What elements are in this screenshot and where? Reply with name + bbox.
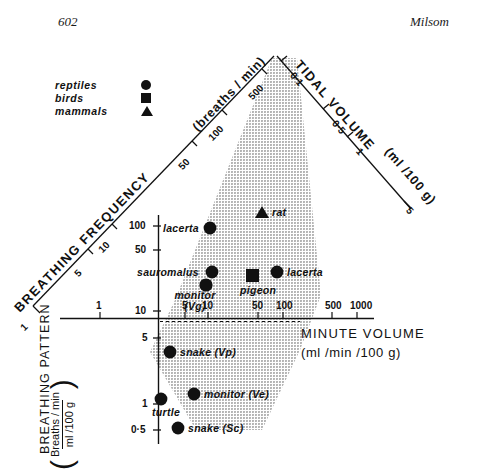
mv-ticklabel-1: 1 xyxy=(96,300,102,311)
point-label-lacerta-right: lacerta xyxy=(287,266,323,278)
data-point-turtle xyxy=(155,393,168,406)
bf-tick-100 xyxy=(222,110,227,115)
data-point-lacerta-right xyxy=(271,266,284,279)
point-label-pigeon: pigeon xyxy=(240,284,276,296)
data-point-monitor-ve xyxy=(188,388,201,401)
point-label-snake-sc: snake (Sc) xyxy=(188,422,244,434)
minute-volume-axis-unit: (ml /min /100 g) xyxy=(301,345,401,360)
bp-ticklabel-1: 1 xyxy=(142,398,148,409)
bf-tick-5 xyxy=(88,249,93,254)
bp-ticklabel-0-5: 0·5 xyxy=(131,424,145,435)
point-label-turtle: turtle xyxy=(152,406,180,418)
minute-volume-axis-title: MINUTE VOLUME xyxy=(301,326,425,341)
shaded-band xyxy=(150,58,321,430)
data-point-snake-vp xyxy=(164,346,177,359)
bf-tick-10 xyxy=(112,224,117,229)
bp-ticklabel-50: 50 xyxy=(135,244,146,255)
mv-ticklabel-1000: 1000 xyxy=(350,300,372,311)
mv-ticklabel-50: 50 xyxy=(252,300,263,311)
data-point-lacerta-upper xyxy=(204,222,217,235)
bp-unit-denominator: ml /100 g xyxy=(62,400,75,449)
point-label-lacerta-upper: lacerta xyxy=(163,222,199,234)
open-paren: ( xyxy=(47,460,77,470)
bp-ticklabel-10: 10 xyxy=(135,305,146,316)
breathing-pattern-axis-unit: ( Breaths / min ml /100 g ) xyxy=(47,379,77,470)
data-point-sauromalus xyxy=(206,266,219,279)
bp-unit-numerator: Breaths / min xyxy=(49,390,61,459)
bp-ticklabel-100: 100 xyxy=(129,220,146,231)
mv-ticklabel-100: 100 xyxy=(276,300,293,311)
point-label-sauromalus: sauromalus xyxy=(137,266,199,278)
point-label-monitor-ve: monitor (Ve) xyxy=(204,388,269,400)
point-label-rat: rat xyxy=(272,206,286,218)
bf-tick-500 xyxy=(262,69,267,74)
mv-ticklabel-500: 500 xyxy=(325,300,342,311)
point-label-monitor-vg: monitor (Vg) xyxy=(165,290,225,312)
data-point-pigeon xyxy=(246,269,259,282)
point-label-snake-vp: snake (Vp) xyxy=(180,346,236,358)
close-paren: ) xyxy=(47,379,77,389)
data-point-snake-sc xyxy=(172,422,185,435)
bp-ticklabel-5: 5 xyxy=(142,332,148,343)
bf-tick-50 xyxy=(192,141,197,146)
